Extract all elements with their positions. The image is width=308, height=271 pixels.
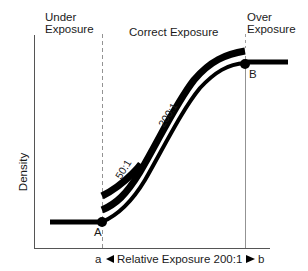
x-axis-label-center: Relative Exposure 200:1 [117,253,242,265]
arrow-right-icon [246,255,255,263]
label-point-a: A [94,226,102,238]
y-axis-label: Density [17,153,29,192]
characteristic-curve-diagram: 50:1 200:1 A B Density a Relative Exposu… [0,0,308,271]
x-axis-label-b: b [258,253,264,265]
arrow-left-icon [106,255,114,263]
label-point-b: B [249,68,257,80]
x-axis-label-a: a [95,253,102,265]
